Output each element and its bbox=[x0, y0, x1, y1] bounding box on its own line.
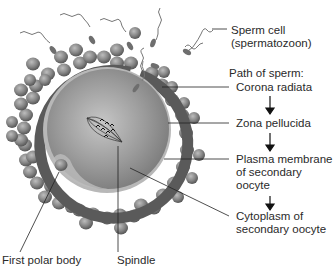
label-plasma-membrane-line1: Plasma membrane bbox=[236, 153, 333, 166]
label-cytoplasm-line2: secondary oocyte bbox=[236, 223, 326, 236]
label-plasma-membrane-line3: oocyte bbox=[236, 179, 333, 192]
label-polar-body-cut: First polar body bbox=[2, 254, 81, 267]
label-spindle-cut: Spindle bbox=[117, 254, 155, 267]
label-plasma-membrane: Plasma membrane of secondary oocyte bbox=[236, 153, 333, 192]
label-zona-pellucida: Zona pellucida bbox=[236, 117, 311, 130]
label-plasma-membrane-line2: of secondary bbox=[236, 166, 333, 179]
label-sperm-cell-line1: Sperm cell bbox=[231, 24, 312, 37]
label-path-heading: Path of sperm: bbox=[229, 67, 304, 80]
label-sperm-cell-line2: (spermatozoon) bbox=[231, 37, 312, 50]
polar-body bbox=[55, 159, 68, 171]
label-corona-radiata: Corona radiata bbox=[236, 81, 312, 94]
label-sperm-cell: Sperm cell (spermatozoon) bbox=[231, 24, 312, 50]
label-cytoplasm-line1: Cytoplasm of bbox=[236, 210, 326, 223]
label-cytoplasm: Cytoplasm of secondary oocyte bbox=[236, 210, 326, 236]
